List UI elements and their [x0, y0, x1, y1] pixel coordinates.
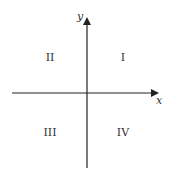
quadrant-label-IV: IV	[117, 126, 130, 139]
y-axis-label: y	[76, 10, 84, 23]
coordinate-plane-diagram: y x I II III IV	[0, 0, 172, 172]
x-axis-label: x	[156, 94, 163, 107]
quadrant-label-II: II	[46, 51, 55, 64]
quadrant-label-III: III	[43, 126, 56, 139]
quadrant-label-I: I	[121, 51, 125, 64]
